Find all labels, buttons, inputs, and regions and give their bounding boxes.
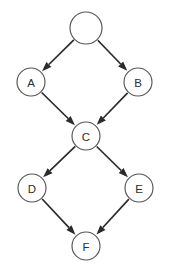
node-label: D	[28, 183, 36, 195]
edge-shaft	[49, 40, 74, 65]
graph-node-e[interactable]: E	[125, 174, 153, 202]
edge-shaft	[50, 146, 75, 170]
edge-a-to-c	[42, 93, 75, 126]
edge-root-to-b	[98, 40, 127, 71]
edge-shaft	[42, 93, 68, 119]
edge-d-to-f	[42, 199, 75, 235]
nodes-layer: ABCDEF	[17, 12, 153, 260]
edge-c-to-d	[43, 146, 75, 177]
node-label: B	[134, 77, 142, 89]
graph-node-b[interactable]: B	[124, 68, 152, 96]
edge-root-to-a	[42, 40, 74, 71]
graph-node-c[interactable]: C	[72, 122, 100, 150]
graph-node-a[interactable]: A	[17, 68, 45, 96]
edge-shaft	[42, 199, 69, 228]
edge-shaft	[103, 199, 129, 227]
edge-c-to-e	[97, 147, 128, 178]
graph-node-f[interactable]: F	[72, 232, 100, 260]
graph-canvas: ABCDEF	[0, 0, 170, 277]
node-label: A	[27, 77, 35, 89]
edge-b-to-c	[97, 93, 128, 125]
node-label: C	[82, 131, 90, 143]
edge-shaft	[97, 147, 121, 171]
graph-node-root[interactable]	[70, 12, 102, 44]
node-circle[interactable]	[70, 12, 102, 44]
edge-shaft	[98, 40, 121, 64]
edge-shaft	[103, 93, 127, 118]
node-label: F	[82, 241, 89, 253]
node-label: E	[135, 183, 143, 195]
graph-diagram: ABCDEF	[0, 0, 170, 277]
graph-node-d[interactable]: D	[18, 174, 46, 202]
edge-e-to-f	[96, 199, 128, 234]
